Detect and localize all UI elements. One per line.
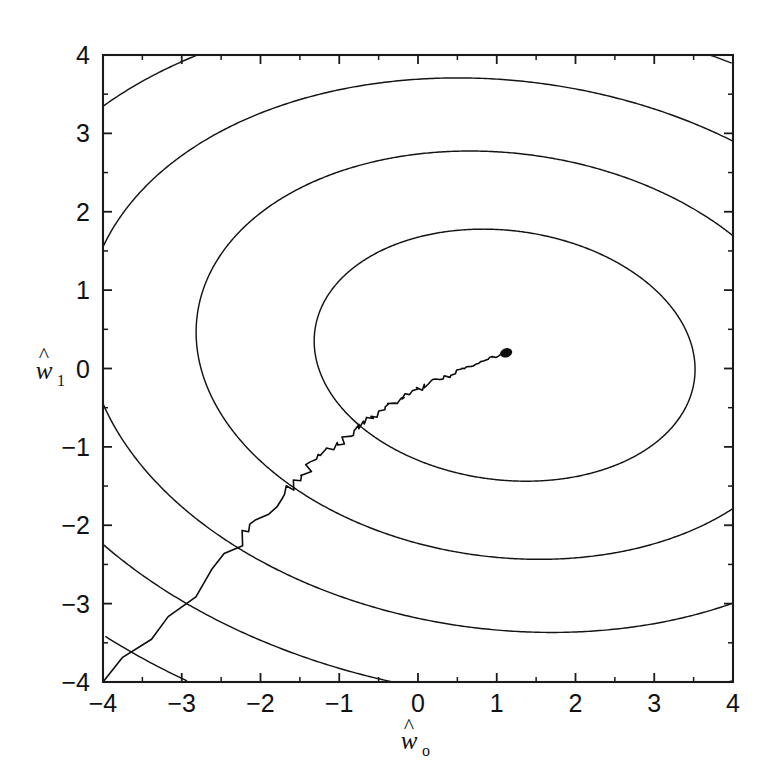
x-tick-label: 1 [490,689,504,717]
y-tick-label: −3 [61,590,90,618]
x-tick-label: −1 [325,689,354,717]
x-tick-label: −4 [89,689,118,717]
y-tick-label: −2 [61,511,90,539]
y-tick-label: 4 [76,41,90,69]
y-tick-label: −4 [61,668,90,696]
x-tick-label: −3 [167,689,196,717]
y-tick-label: 1 [76,276,90,304]
y-axis-title-base: w [36,357,53,384]
x-tick-label: 2 [569,689,583,717]
x-axis-title-subscript: o [422,742,430,759]
x-tick-label: 3 [647,689,661,717]
y-tick-label: 0 [76,355,90,383]
figure-page: −4−3−2−101234 −4−3−2−101234 ^ w o ^ w 1 [0,0,775,784]
y-tick-label: 3 [76,119,90,147]
x-tick-label: 4 [726,689,740,717]
x-axis-title-base: w [401,727,418,754]
contour-plot-figure: −4−3−2−101234 −4−3−2−101234 ^ w o ^ w 1 [0,0,775,784]
y-tick-label: 2 [76,198,90,226]
x-tick-label: −2 [246,689,275,717]
y-axis-title-subscript: 1 [57,372,65,389]
y-tick-label: −1 [61,433,90,461]
